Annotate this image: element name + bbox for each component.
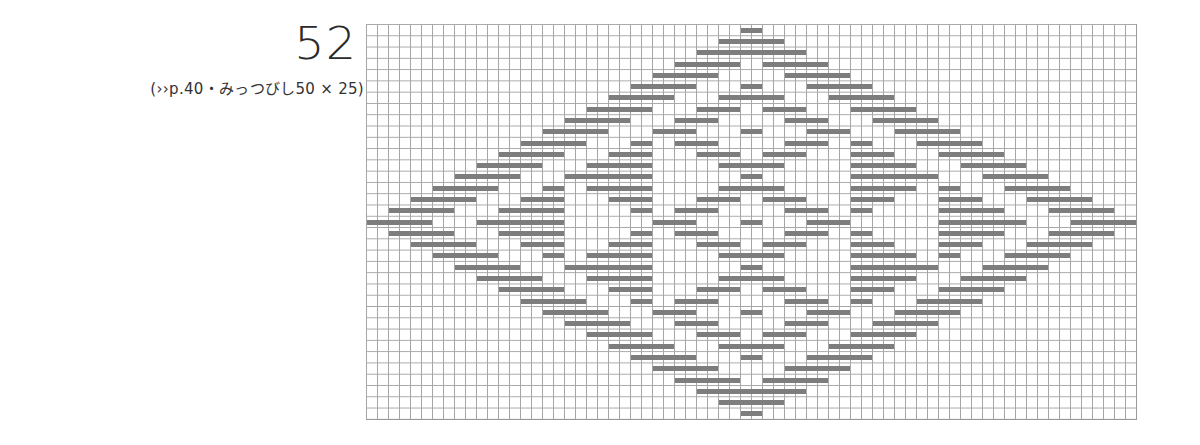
stitch-bar <box>807 355 872 360</box>
stitch-bar <box>785 118 828 123</box>
stitch-bar <box>851 186 916 191</box>
stitch-bar <box>675 118 718 123</box>
stitch-bar <box>675 321 718 326</box>
stitch-bar <box>1071 220 1136 225</box>
stitch-bar <box>939 220 1026 225</box>
stitch-bar <box>851 299 872 304</box>
stitch-bar <box>675 299 718 304</box>
stitch-bar <box>851 163 916 168</box>
stitch-bar <box>851 174 938 179</box>
stitch-bar <box>609 242 652 247</box>
stitch-bar <box>807 310 850 315</box>
stitch-bar <box>653 73 718 78</box>
stitch-bar <box>609 95 674 100</box>
stitch-bar <box>1049 208 1114 213</box>
stitch-bar <box>587 163 652 168</box>
stitch-bar <box>411 197 476 202</box>
stitch-bar <box>653 220 696 225</box>
stitch-bar <box>939 231 1004 236</box>
stitch-bar <box>741 355 762 360</box>
stitch-bar <box>763 242 806 247</box>
stitch-bar <box>763 332 806 337</box>
stitch-bar <box>411 242 476 247</box>
stitch-bar <box>917 141 982 146</box>
stitch-bar <box>851 276 916 281</box>
stitch-bar <box>477 163 542 168</box>
stitch-bar <box>675 208 718 213</box>
stitch-bar <box>785 366 850 371</box>
stitch-bar <box>741 28 762 33</box>
stitch-bar <box>675 378 740 383</box>
stitch-bar <box>521 197 564 202</box>
stitch-bar <box>873 118 938 123</box>
stitch-bar <box>565 265 652 270</box>
stitch-bar <box>719 344 784 349</box>
stitch-bar <box>785 299 828 304</box>
stitch-bar <box>455 265 520 270</box>
stitch-bar <box>851 141 872 146</box>
stitch-bar <box>939 253 960 258</box>
stitch-bar <box>543 310 608 315</box>
stitch-bar <box>719 253 784 258</box>
stitch-bar <box>499 287 564 292</box>
stitch-bar <box>1005 186 1070 191</box>
stitch-bar <box>983 174 1048 179</box>
stitch-bar <box>609 287 652 292</box>
stitch-bar <box>851 208 872 213</box>
stitch-bar <box>389 208 454 213</box>
stitch-bar <box>851 242 894 247</box>
stitch-bar <box>785 208 828 213</box>
stitch-bar <box>939 152 1004 157</box>
stitch-bar <box>807 129 850 134</box>
stitch-bar <box>477 220 564 225</box>
stitch-bar <box>565 118 630 123</box>
stitch-bar <box>895 310 960 315</box>
stitch-bar <box>741 265 762 270</box>
knitting-chart-grid <box>366 24 1137 420</box>
stitch-bar <box>829 95 894 100</box>
stitch-bar <box>697 197 740 202</box>
stitch-bar <box>719 276 784 281</box>
stitch-bar <box>653 310 696 315</box>
stitch-bar <box>961 163 1026 168</box>
stitch-bar <box>719 95 784 100</box>
stitch-bar <box>939 186 960 191</box>
stitch-bar <box>851 253 916 258</box>
stitch-bar <box>851 287 894 292</box>
stitch-bar <box>697 107 740 112</box>
stitch-bar <box>851 332 916 337</box>
stitch-bar <box>587 186 652 191</box>
stitch-bar <box>521 141 586 146</box>
stitch-bar <box>719 39 784 44</box>
stitch-bar <box>631 231 652 236</box>
stitch-bar <box>851 107 916 112</box>
stitch-bar <box>1005 253 1070 258</box>
stitch-bar <box>741 220 762 225</box>
stitch-bar <box>521 242 564 247</box>
pattern-number: 52 <box>294 22 357 66</box>
stitch-bar <box>609 197 652 202</box>
stitch-bar <box>565 321 630 326</box>
stitch-bar <box>543 253 564 258</box>
stitch-bar <box>499 231 564 236</box>
stitch-bar <box>653 366 718 371</box>
stitch-bar <box>851 152 894 157</box>
stitch-bar <box>389 231 454 236</box>
stitch-bar <box>477 276 542 281</box>
stitch-bar <box>763 152 806 157</box>
stitch-bar <box>829 344 894 349</box>
stitch-bar <box>1049 231 1114 236</box>
stitch-bar <box>763 62 828 67</box>
stitch-bar <box>917 299 982 304</box>
stitch-bar <box>785 321 828 326</box>
stitch-bar <box>631 141 652 146</box>
pattern-caption: (››p.40・みっつびし50 × 25) <box>150 77 364 98</box>
stitch-bar <box>499 208 564 213</box>
stitch-bar <box>675 141 718 146</box>
stitch-bar <box>587 253 652 258</box>
stitch-bar <box>719 163 784 168</box>
stitch-bar <box>807 220 850 225</box>
stitch-bar <box>851 231 872 236</box>
stitch-bar <box>367 220 432 225</box>
stitch-bar <box>939 197 982 202</box>
